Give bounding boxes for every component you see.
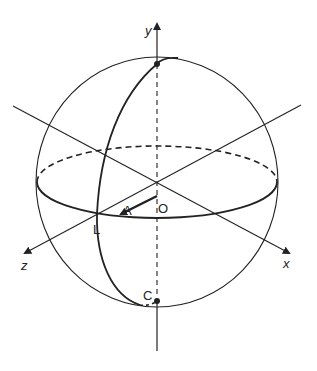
point-a-label: A <box>123 203 132 218</box>
x-axis-label: x <box>282 256 290 271</box>
point-c <box>154 298 160 304</box>
z-axis <box>25 105 301 253</box>
meridian-arc <box>97 58 178 305</box>
sphere-diagram: y z x O A L C <box>0 0 317 371</box>
x-axis <box>13 106 289 253</box>
z-axis-label: z <box>20 258 28 273</box>
origin-label: O <box>158 201 168 216</box>
top-point <box>154 61 160 67</box>
y-axis-label: y <box>144 23 153 38</box>
point-c-label: C <box>143 288 152 303</box>
point-l-label: L <box>93 222 100 237</box>
